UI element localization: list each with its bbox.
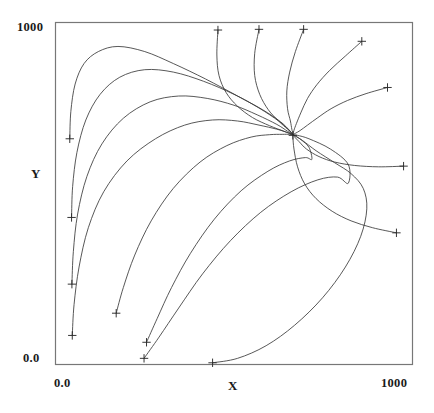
plot-canvas xyxy=(0,0,434,413)
phase-portrait-figure: 1000 0.0 0.0 1000 Y X xyxy=(0,0,434,413)
y-axis-title: Y xyxy=(31,166,41,182)
y-axis-min-tick-label: 0.0 xyxy=(23,351,40,366)
x-axis-min-tick-label: 0.0 xyxy=(54,376,71,391)
x-axis-title: X xyxy=(228,378,238,394)
y-axis-max-tick-label: 1000 xyxy=(17,20,43,35)
x-axis-max-tick-label: 1000 xyxy=(381,376,407,391)
